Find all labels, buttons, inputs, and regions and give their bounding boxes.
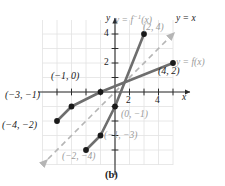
- point-label-neg4-neg2: (−4, −2): [2, 120, 37, 130]
- y-tick-label-4: 4: [104, 29, 109, 39]
- f-inverse-prefix: y = f: [115, 15, 133, 25]
- figure-caption: (b): [105, 170, 118, 181]
- point-marker: [112, 104, 118, 110]
- point-label-neg3-neg1: (−3, −1): [5, 90, 40, 100]
- curve-label-identity: y = x: [176, 14, 196, 24]
- point-label-neg1-0: (−1, 0): [51, 71, 79, 81]
- x-tick-label-4: 4: [155, 96, 160, 106]
- point-label-0-neg1: (0, −1): [121, 110, 148, 120]
- y-axis-label: y: [106, 14, 110, 24]
- point-marker: [69, 104, 75, 110]
- point-label-4-2: (4, 2): [158, 66, 180, 76]
- point-marker: [54, 118, 60, 124]
- x-tick-label-2: 2: [126, 96, 131, 106]
- point-marker: [98, 89, 104, 95]
- point-marker: [98, 133, 104, 139]
- point-label-neg2-neg4: (−2, −4): [62, 152, 95, 162]
- axes: [38, 18, 190, 175]
- point-label-neg1-neg3: (−1, −3): [104, 131, 137, 141]
- curve-label-f-of-x: y = f(x): [176, 58, 205, 68]
- inverse-function-graph-figure: y x 2 4 2 4 y = f−1(x) y = x y = f(x) (2…: [0, 0, 225, 186]
- point-label-2-4: (2, 4): [143, 23, 164, 33]
- y-tick-label-2: 2: [104, 58, 109, 68]
- x-axis-label: x: [182, 93, 186, 103]
